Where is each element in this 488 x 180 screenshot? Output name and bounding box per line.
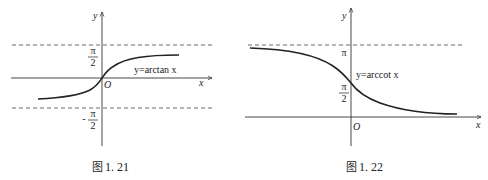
figure-arccot: y x O y=arccot x π π 2 图 1. 22	[245, 8, 481, 174]
x-axis-label: x	[475, 119, 481, 130]
half-pi-label: π 2	[339, 81, 349, 104]
caption-prefix: 图	[346, 161, 357, 174]
upper-asymptote-label: π 2	[88, 45, 98, 68]
caption-1-22: 图 1. 22	[346, 160, 383, 174]
origin-label: O	[353, 121, 360, 132]
caption-number: 1. 21	[105, 160, 129, 174]
arccot-curve	[250, 48, 457, 114]
fraction-denominator: 2	[91, 57, 96, 68]
arctan-curve	[38, 55, 179, 99]
origin-label: O	[104, 79, 111, 90]
fraction-denominator: 2	[91, 120, 96, 131]
y-axis-label: y	[341, 10, 347, 21]
curve-label: y=arctan x	[134, 64, 177, 75]
lower-asymptote-label: - π 2	[82, 108, 98, 131]
caption-prefix: 图	[92, 161, 103, 174]
curve-label: y=arccot x	[356, 69, 399, 80]
fraction-numerator: π	[341, 81, 346, 92]
fraction-numerator: π	[90, 108, 95, 119]
y-axis-label: y	[92, 10, 98, 21]
caption-number: 1. 22	[359, 160, 383, 174]
figure-canvas: y x O y=arctan x π 2 - π 2 图 1. 21 y x O	[0, 0, 488, 180]
fraction-denominator: 2	[342, 93, 347, 104]
pi-label: π	[341, 47, 346, 58]
figure-arctan: y x O y=arctan x π 2 - π 2 图 1. 21	[11, 10, 212, 174]
caption-1-21: 图 1. 21	[92, 160, 129, 174]
x-axis-label: x	[198, 77, 204, 88]
minus-sign: -	[82, 113, 85, 124]
fraction-numerator: π	[90, 45, 95, 56]
